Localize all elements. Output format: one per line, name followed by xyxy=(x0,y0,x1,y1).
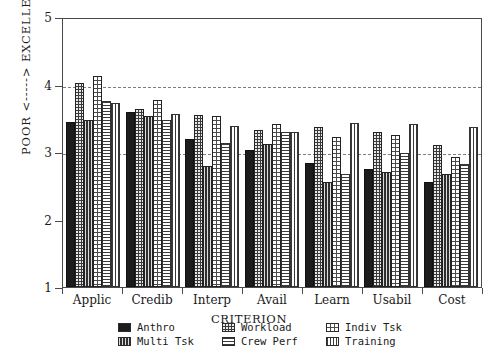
legend-label: Workload xyxy=(241,322,292,333)
bar-indiv-tsk[interactable] xyxy=(391,135,400,287)
bar-chart: POOR <-----> EXCELLENT 12345 ApplicCredi… xyxy=(0,0,498,357)
bar-indiv-tsk[interactable] xyxy=(153,100,162,287)
bar-multi-tsk[interactable] xyxy=(84,120,93,287)
bar-crew-perf[interactable] xyxy=(281,132,290,287)
bar-training[interactable] xyxy=(409,124,418,287)
y-tick-label: 1 xyxy=(44,282,52,294)
bar-workload[interactable] xyxy=(75,83,84,287)
bar-groups xyxy=(63,19,481,287)
bar-indiv-tsk[interactable] xyxy=(451,157,460,287)
bar-workload[interactable] xyxy=(194,115,203,287)
bar-group xyxy=(242,19,302,287)
bar-anthro[interactable] xyxy=(364,169,373,287)
legend-item[interactable]: Indiv Tsk xyxy=(326,321,430,333)
bar-anthro[interactable] xyxy=(66,122,75,287)
bar-training[interactable] xyxy=(350,123,359,287)
bar-anthro[interactable] xyxy=(185,139,194,288)
x-tick-label: Interp xyxy=(182,294,242,310)
bar-training[interactable] xyxy=(171,114,180,287)
bar-indiv-tsk[interactable] xyxy=(272,124,281,287)
x-axis-labels: ApplicCredibInterpAvailLearnUsabilCost xyxy=(62,294,482,310)
legend-swatch-icon xyxy=(222,323,235,332)
x-tick-label: Credib xyxy=(122,294,182,310)
bar-crew-perf[interactable] xyxy=(460,164,469,287)
y-tick-label: 5 xyxy=(44,12,52,24)
legend-label: Anthro xyxy=(137,322,175,333)
y-tick-mark xyxy=(55,221,62,222)
bar-workload[interactable] xyxy=(433,145,442,287)
bar-training[interactable] xyxy=(290,132,299,287)
legend-swatch-icon xyxy=(222,337,235,346)
bar-anthro[interactable] xyxy=(305,163,314,287)
legend-item[interactable]: Multi Tsk xyxy=(118,335,222,347)
bar-workload[interactable] xyxy=(373,132,382,287)
bar-group xyxy=(63,19,123,287)
legend-item[interactable]: Crew Perf xyxy=(222,335,326,347)
legend-label: Indiv Tsk xyxy=(345,322,402,333)
bar-crew-perf[interactable] xyxy=(221,143,230,287)
x-tick-mark xyxy=(482,288,483,294)
bar-group xyxy=(182,19,242,287)
bar-training[interactable] xyxy=(111,103,120,287)
y-axis-title: POOR <-----> EXCELLENT xyxy=(19,0,33,177)
bar-indiv-tsk[interactable] xyxy=(332,137,341,287)
x-tick-label: Avail xyxy=(242,294,302,310)
bar-anthro[interactable] xyxy=(424,182,433,287)
bar-multi-tsk[interactable] xyxy=(144,116,153,287)
x-tick-label: Learn xyxy=(302,294,362,310)
x-tick-label: Usabil xyxy=(362,294,422,310)
bar-training[interactable] xyxy=(469,127,478,287)
y-tick-mark xyxy=(55,153,62,154)
y-tick-mark xyxy=(55,86,62,87)
y-axis: POOR <-----> EXCELLENT 12345 xyxy=(0,0,62,306)
y-tick-mark xyxy=(55,288,62,289)
x-tick-label: Cost xyxy=(422,294,482,310)
bar-crew-perf[interactable] xyxy=(102,101,111,287)
bar-workload[interactable] xyxy=(254,130,263,287)
legend-item[interactable]: Anthro xyxy=(118,321,222,333)
y-tick-label: 2 xyxy=(44,215,52,227)
bar-group xyxy=(362,19,422,287)
legend-swatch-icon xyxy=(326,337,339,346)
legend-item[interactable]: Training xyxy=(326,335,430,347)
bar-workload[interactable] xyxy=(314,127,323,287)
legend-swatch-icon xyxy=(326,323,339,332)
bar-training[interactable] xyxy=(230,126,239,287)
legend-swatch-icon xyxy=(118,337,131,346)
bar-crew-perf[interactable] xyxy=(400,153,409,287)
legend-swatch-icon xyxy=(118,323,131,332)
y-tick-label: 3 xyxy=(44,147,52,159)
legend-label: Multi Tsk xyxy=(137,336,194,347)
legend-label: Crew Perf xyxy=(241,336,298,347)
legend-label: Training xyxy=(345,336,396,347)
bar-multi-tsk[interactable] xyxy=(263,144,272,287)
x-tick-label: Applic xyxy=(62,294,122,310)
y-tick-mark xyxy=(55,18,62,19)
bar-group xyxy=(123,19,183,287)
bar-crew-perf[interactable] xyxy=(341,174,350,287)
y-tick-label: 4 xyxy=(44,80,52,92)
legend-item[interactable]: Workload xyxy=(222,321,326,333)
legend: AnthroWorkloadIndiv TskMulti TskCrew Per… xyxy=(118,321,430,347)
bar-indiv-tsk[interactable] xyxy=(93,76,102,287)
bar-anthro[interactable] xyxy=(126,112,135,288)
bar-multi-tsk[interactable] xyxy=(323,182,332,287)
bar-multi-tsk[interactable] xyxy=(442,174,451,287)
bar-indiv-tsk[interactable] xyxy=(212,116,221,287)
bar-crew-perf[interactable] xyxy=(162,120,171,287)
bar-multi-tsk[interactable] xyxy=(203,166,212,288)
bar-multi-tsk[interactable] xyxy=(382,172,391,287)
bar-workload[interactable] xyxy=(135,109,144,287)
plot-area xyxy=(62,18,482,288)
bar-anthro[interactable] xyxy=(245,150,254,287)
bar-group xyxy=(421,19,481,287)
bar-group xyxy=(302,19,362,287)
